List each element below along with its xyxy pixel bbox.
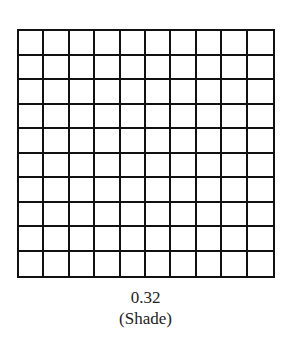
grid-cell[interactable] [222, 31, 247, 56]
grid-cell[interactable] [44, 56, 69, 81]
grid-cell[interactable] [146, 56, 171, 81]
grid-cell[interactable] [121, 154, 146, 179]
grid-cell[interactable] [222, 227, 247, 252]
grid-cell[interactable] [146, 105, 171, 130]
grid-cell[interactable] [248, 203, 273, 228]
grid-cell[interactable] [44, 252, 69, 277]
grid-cell[interactable] [197, 129, 222, 154]
grid-cell[interactable] [19, 178, 44, 203]
grid-cell[interactable] [95, 203, 120, 228]
grid-cell[interactable] [70, 31, 95, 56]
grid-cell[interactable] [44, 129, 69, 154]
grid-cell[interactable] [95, 80, 120, 105]
grid-cell[interactable] [95, 252, 120, 277]
grid-cell[interactable] [222, 203, 247, 228]
grid-cell[interactable] [121, 129, 146, 154]
grid-cell[interactable] [248, 105, 273, 130]
grid-cell[interactable] [248, 56, 273, 81]
grid-cell[interactable] [70, 129, 95, 154]
grid-cell[interactable] [70, 154, 95, 179]
grid-cell[interactable] [19, 105, 44, 130]
grid-cell[interactable] [19, 80, 44, 105]
grid-cell[interactable] [197, 178, 222, 203]
grid-cell[interactable] [95, 105, 120, 130]
grid-cell[interactable] [171, 178, 196, 203]
grid-cell[interactable] [171, 80, 196, 105]
grid-cell[interactable] [222, 56, 247, 81]
grid-cell[interactable] [70, 227, 95, 252]
grid-cell[interactable] [146, 31, 171, 56]
grid-cell[interactable] [197, 252, 222, 277]
grid-cell[interactable] [121, 31, 146, 56]
grid-cell[interactable] [197, 203, 222, 228]
grid-cell[interactable] [44, 203, 69, 228]
grid-cell[interactable] [222, 105, 247, 130]
grid-cell[interactable] [44, 154, 69, 179]
grid-cell[interactable] [146, 178, 171, 203]
grid-cell[interactable] [95, 31, 120, 56]
grid-cell[interactable] [44, 31, 69, 56]
hundred-grid[interactable] [17, 29, 275, 278]
grid-cell[interactable] [121, 203, 146, 228]
grid-cell[interactable] [222, 178, 247, 203]
grid-cell[interactable] [248, 227, 273, 252]
grid-cell[interactable] [248, 80, 273, 105]
grid-cell[interactable] [222, 80, 247, 105]
grid-cell[interactable] [121, 105, 146, 130]
grid-cell[interactable] [44, 178, 69, 203]
grid-cell[interactable] [95, 129, 120, 154]
grid-cell[interactable] [19, 154, 44, 179]
grid-cell[interactable] [222, 252, 247, 277]
grid-cell[interactable] [95, 154, 120, 179]
grid-cell[interactable] [95, 227, 120, 252]
grid-cell[interactable] [19, 129, 44, 154]
grid-cell[interactable] [70, 252, 95, 277]
grid-cell[interactable] [146, 203, 171, 228]
grid-cell[interactable] [222, 154, 247, 179]
grid-cell[interactable] [171, 227, 196, 252]
grid-cell[interactable] [19, 227, 44, 252]
grid-cell[interactable] [197, 80, 222, 105]
grid-cell[interactable] [197, 56, 222, 81]
grid-cell[interactable] [121, 227, 146, 252]
grid-cell[interactable] [171, 154, 196, 179]
grid-cell[interactable] [121, 56, 146, 81]
grid-cell[interactable] [248, 154, 273, 179]
grid-cell[interactable] [70, 80, 95, 105]
grid-cell[interactable] [248, 178, 273, 203]
grid-cell[interactable] [197, 31, 222, 56]
grid-cell[interactable] [171, 105, 196, 130]
grid-cell[interactable] [171, 56, 196, 81]
grid-cell[interactable] [248, 31, 273, 56]
grid-cell[interactable] [171, 129, 196, 154]
grid-cell[interactable] [121, 80, 146, 105]
grid-cell[interactable] [146, 80, 171, 105]
grid-cell[interactable] [19, 31, 44, 56]
grid-cell[interactable] [70, 105, 95, 130]
grid-cell[interactable] [171, 31, 196, 56]
grid-cell[interactable] [222, 129, 247, 154]
grid-cell[interactable] [95, 178, 120, 203]
grid-cell[interactable] [70, 56, 95, 81]
grid-cell[interactable] [171, 203, 196, 228]
grid-cell[interactable] [70, 178, 95, 203]
grid-cell[interactable] [19, 203, 44, 228]
grid-cell[interactable] [121, 252, 146, 277]
grid-cell[interactable] [146, 129, 171, 154]
grid-cell[interactable] [44, 80, 69, 105]
grid-cell[interactable] [95, 56, 120, 81]
grid-cell[interactable] [146, 252, 171, 277]
grid-cell[interactable] [197, 227, 222, 252]
grid-cell[interactable] [19, 252, 44, 277]
grid-cell[interactable] [19, 56, 44, 81]
grid-cell[interactable] [44, 105, 69, 130]
grid-cell[interactable] [197, 154, 222, 179]
grid-cell[interactable] [146, 227, 171, 252]
grid-cell[interactable] [197, 105, 222, 130]
grid-cell[interactable] [171, 252, 196, 277]
grid-cell[interactable] [70, 203, 95, 228]
grid-cell[interactable] [44, 227, 69, 252]
grid-cell[interactable] [248, 252, 273, 277]
grid-cell[interactable] [121, 178, 146, 203]
grid-cell[interactable] [146, 154, 171, 179]
